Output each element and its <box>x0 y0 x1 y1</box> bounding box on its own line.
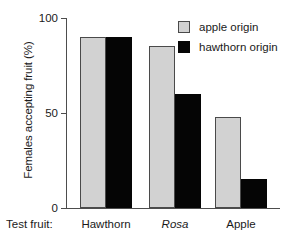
bar-hawthorn-apple-origin <box>80 37 106 208</box>
bar-rosa-hawthorn-origin <box>175 94 201 208</box>
legend-item-apple-origin: apple origin <box>178 18 278 36</box>
y-tick-label: 100 <box>39 12 58 24</box>
x-axis-title: Test fruit: <box>6 218 53 230</box>
y-tick-mark <box>61 18 66 19</box>
x-category-label-hawthorn: Hawthorn <box>81 218 130 230</box>
x-axis-label-row: Test fruit: Hawthorn Rosa Apple <box>0 214 297 238</box>
chart-legend: apple origin hawthorn origin <box>178 18 278 58</box>
black-square-swatch <box>178 41 190 53</box>
bar-rosa-apple-origin <box>149 46 175 208</box>
bar-apple-hawthorn-origin <box>241 179 267 208</box>
bar-hawthorn-hawthorn-origin <box>106 37 132 208</box>
legend-label: hawthorn origin <box>199 41 278 53</box>
x-category-label-apple: Apple <box>226 218 255 230</box>
y-tick-label: 0 <box>52 202 58 214</box>
legend-label: apple origin <box>199 21 258 33</box>
bar-apple-apple-origin <box>215 117 241 208</box>
x-category-label-rosa: Rosa <box>162 218 189 230</box>
y-tick-label: 50 <box>45 107 58 119</box>
x-axis-line <box>66 208 280 209</box>
legend-item-hawthorn-origin: hawthorn origin <box>178 38 278 56</box>
y-tick-mark <box>61 208 66 209</box>
y-axis-line <box>66 18 67 209</box>
bar-group-hawthorn <box>80 18 132 208</box>
bar-chart-figure: Females accepting fruit (%) 100 50 0 <box>0 0 297 243</box>
gray-square-swatch <box>178 21 190 33</box>
y-tick-mark <box>61 113 66 114</box>
y-axis-title: Females accepting fruit (%) <box>22 20 34 200</box>
